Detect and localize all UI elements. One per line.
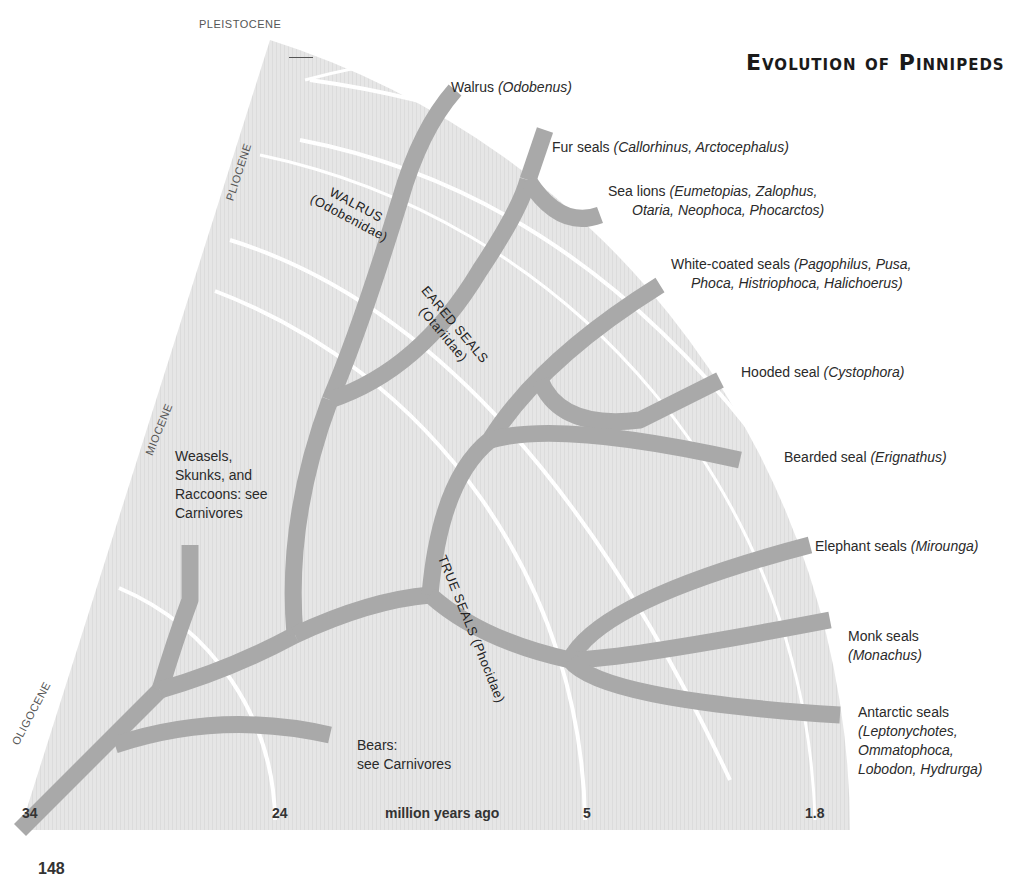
outgroup-bears: Bears: see Carnivores bbox=[357, 736, 451, 774]
axis-label: million years ago bbox=[385, 805, 499, 821]
taxon-bearded-seal: Bearded seal (Erignathus) bbox=[784, 448, 947, 467]
taxon-antarctic-seals: Antarctic seals (Leptonychotes, Ommatoph… bbox=[858, 703, 983, 779]
pleistocene-leader-line bbox=[289, 57, 313, 58]
taxon-sea-lions: Sea lions (Eumetopias, Zalophus, Otaria,… bbox=[608, 182, 824, 220]
epoch-pleistocene: PLEISTOCENE bbox=[199, 18, 281, 30]
taxon-hooded-seal: Hooded seal (Cystophora) bbox=[741, 363, 904, 382]
axis-tick-1_8: 1.8 bbox=[805, 805, 824, 821]
axis-tick-5: 5 bbox=[583, 805, 591, 821]
axis-tick-24: 24 bbox=[272, 805, 288, 821]
taxon-walrus: Walrus (Odobenus) bbox=[451, 78, 572, 97]
taxon-monk-seals: Monk seals (Monachus) bbox=[848, 627, 922, 665]
taxon-fur-seals: Fur seals (Callorhinus, Arctocephalus) bbox=[552, 138, 789, 157]
diagram-title: Evolution of Pinnipeds bbox=[746, 50, 1005, 75]
taxon-elephant-seals: Elephant seals (Mirounga) bbox=[815, 537, 978, 556]
taxon-white-coated-seals: White-coated seals (Pagophilus, Pusa, Ph… bbox=[671, 255, 911, 293]
page-number: 148 bbox=[38, 860, 65, 878]
axis-tick-34: 34 bbox=[22, 805, 38, 821]
outgroup-weasels: Weasels, Skunks, and Raccoons: see Carni… bbox=[175, 447, 268, 523]
